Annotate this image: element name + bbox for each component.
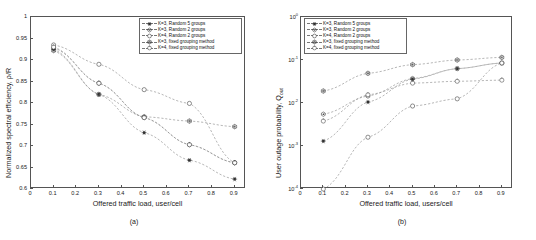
y-tick-mark [30,81,33,82]
x-tick-label: 0.6 [156,190,176,196]
x-tick-mark [412,185,413,188]
x-tick-mark [143,185,144,188]
y-tick-mark [30,38,33,39]
legend-marker-circle-icon [142,33,157,39]
y-tick-mark [30,188,33,189]
series-line [54,47,235,163]
legend-marker-circle-open-icon [307,45,322,51]
panel-caption-b: (b) [268,218,536,225]
x-tick-label: 0.6 [424,190,444,196]
y-tick-mark [30,124,33,125]
x-tick-mark [456,185,457,188]
x-tick-mark [322,185,323,188]
y-tick-mark [300,59,303,60]
x-tick-label: 0.3 [88,190,108,196]
legend-marker-circle-open-icon [142,45,157,51]
y-tick-label: 100 [276,12,298,20]
x-tick-mark [53,185,54,188]
data-point [455,79,459,84]
chart-panel-b: User outage probability, Qout Offered tr… [268,0,536,240]
data-point [142,130,147,134]
y-tick-mark [300,16,303,17]
x-tick-label: 0.7 [178,190,198,196]
x-tick-label: 0.8 [469,190,489,196]
y-tick-label: 10-4 [276,184,298,192]
y-tick-label: 0.7 [5,142,27,148]
y-tick-label: 10-3 [276,141,298,149]
data-point [187,142,191,147]
y-tick-mark [30,16,33,17]
x-tick-label: 0.2 [65,190,85,196]
legend-item-label: K=4, fixed grouping method [158,45,214,51]
legend-marker-star-icon [307,21,322,27]
x-tick-label: 0.5 [133,190,153,196]
x-tick-label: 0.1 [312,190,332,196]
x-axis-label-a: Offered traffic load, user/cell [30,199,245,208]
legend-item-label: K=4, fixed grouping method [323,45,379,51]
y-tick-mark [300,145,303,146]
legend-marker-hexstar-icon [142,39,157,45]
x-tick-label: 0.7 [446,190,466,196]
y-tick-label: 0.6 [5,185,27,191]
data-point [233,160,237,165]
legend-b: K=3, Random 5 groupsK=3, Random 2 groups… [304,18,407,54]
y-tick-label: 0.65 [5,164,27,170]
legend-item: K=4, fixed grouping method [142,45,239,51]
legend-marker-hexagon-icon [142,27,157,33]
y-tick-label: 0.85 [5,78,27,84]
x-tick-mark [345,185,346,188]
x-axis-label-b: Offered traffic load, users/cell [300,199,512,208]
legend-a: K=3, Random 5 groupsK=3, Random 2 groups… [139,18,242,54]
x-tick-mark [389,185,390,188]
x-tick-mark [367,185,368,188]
y-tick-label: 0.8 [5,99,27,105]
y-tick-label: 1 [5,13,27,19]
legend-marker-hexstar-icon [307,39,322,45]
x-tick-label: 0.3 [357,190,377,196]
data-point [321,139,326,143]
x-tick-mark [211,185,212,188]
series-line [54,48,235,163]
x-tick-mark [234,185,235,188]
x-tick-label: 0.1 [43,190,63,196]
legend-marker-hexagon-icon [307,27,322,33]
x-tick-label: 0.2 [335,190,355,196]
x-tick-label: 0.9 [491,190,511,196]
y-tick-mark [30,102,33,103]
x-tick-label: 0.9 [224,190,244,196]
data-point [365,100,370,104]
series-line [54,45,235,163]
data-point [500,61,504,65]
y-tick-label: 0.75 [5,121,27,127]
y-tick-label: 10-1 [276,55,298,63]
x-tick-mark [188,185,189,188]
data-point [187,158,192,162]
legend-item: K=4, fixed grouping method [307,45,404,51]
x-tick-label: 0.4 [379,190,399,196]
series-line [323,80,502,121]
series-line [323,63,502,141]
y-tick-mark [300,102,303,103]
legend-marker-circle-icon [307,33,322,39]
data-point [410,80,414,85]
y-tick-label: 0.9 [5,56,27,62]
data-point [97,62,101,66]
data-point [366,92,370,97]
x-tick-mark [121,185,122,188]
x-tick-mark [166,185,167,188]
x-tick-mark [501,185,502,188]
y-tick-mark [30,167,33,168]
x-tick-mark [434,185,435,188]
data-point [142,88,146,92]
data-point [366,135,370,139]
x-tick-label: 0.5 [402,190,422,196]
chart-panel-a: Normalized spectral efficiency, ρ/R Offe… [0,0,268,240]
data-point [500,77,504,82]
x-tick-mark [75,185,76,188]
data-point [142,115,146,120]
data-point [97,80,101,85]
x-tick-mark [479,185,480,188]
data-point [232,177,237,181]
data-point [187,101,191,105]
y-tick-mark [30,145,33,146]
